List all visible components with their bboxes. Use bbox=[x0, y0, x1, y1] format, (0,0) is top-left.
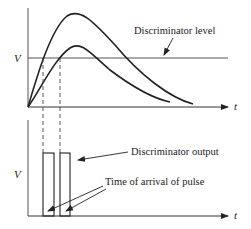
small-pulse-curve bbox=[28, 46, 170, 107]
top-v-label: V bbox=[14, 52, 22, 64]
top-t-label: t bbox=[234, 100, 238, 112]
bottom-plot: V t Discriminator output Time of arrival… bbox=[14, 120, 238, 221]
discriminator-level-label: Discriminator level bbox=[134, 25, 215, 36]
bottom-v-label: V bbox=[14, 168, 22, 180]
top-plot: V t Discriminator level bbox=[14, 8, 238, 112]
discriminator-diagram: V t Discriminator level V t Discriminato… bbox=[0, 0, 251, 229]
diagram-canvas: V t Discriminator level V t Discriminato… bbox=[0, 0, 251, 229]
discriminator-output-label: Discriminator output bbox=[131, 146, 219, 157]
time-of-arrival-label: Time of arrival of pulse bbox=[105, 176, 205, 187]
discriminator-output-arrow bbox=[78, 152, 128, 160]
bottom-t-label: t bbox=[234, 209, 238, 221]
output-pulse-1 bbox=[43, 153, 54, 216]
output-pulse-2 bbox=[60, 153, 70, 216]
discriminator-level-arrow bbox=[164, 38, 173, 55]
arrival-arrow-1 bbox=[48, 186, 103, 211]
crossing-guides bbox=[43, 58, 60, 153]
